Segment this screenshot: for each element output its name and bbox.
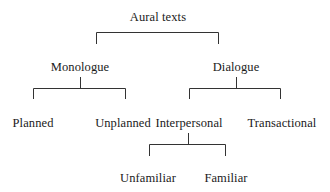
node-interpersonal: Interpersonal — [155, 116, 222, 130]
connector-lines — [0, 0, 330, 192]
connector-interpersonal — [150, 145, 226, 157]
connector-dialogue — [190, 89, 281, 100]
node-aural-texts: Aural texts — [130, 10, 186, 24]
connector-monologue — [34, 89, 126, 100]
node-familiar: Familiar — [204, 171, 247, 185]
node-planned: Planned — [13, 116, 54, 130]
connector-root — [97, 33, 219, 45]
node-monologue: Monologue — [51, 60, 110, 74]
node-unfamiliar: Unfamiliar — [120, 171, 176, 185]
node-unplanned: Unplanned — [95, 116, 151, 130]
node-dialogue: Dialogue — [213, 60, 260, 74]
aural-texts-tree-diagram: Aural texts Monologue Dialogue Planned U… — [0, 0, 330, 192]
node-transactional: Transactional — [248, 116, 317, 130]
